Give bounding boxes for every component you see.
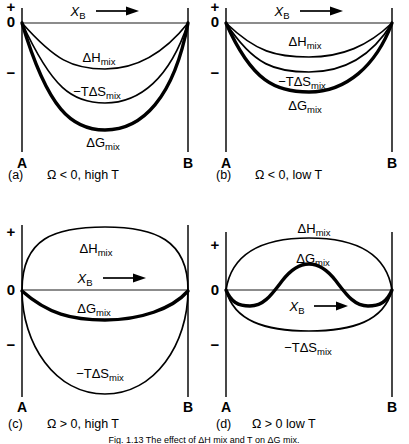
panel-d-right-arrow-head-icon — [336, 302, 348, 311]
panel-c-label-enthalpy: ΔHmix — [80, 241, 113, 258]
panel-c-tag: (c) — [8, 417, 23, 431]
panel-d-end-label-b: B — [387, 399, 397, 415]
panel-c-condition: Ω > 0, high T — [47, 417, 119, 431]
panel-a-label-gibbs: ΔGmix — [86, 135, 120, 152]
panel-a: + 0 − A B XB ΔHmix −TΔSmix ΔGmix (a) Ω <… — [7, 0, 193, 182]
panel-b-composition-label: XB — [273, 4, 343, 21]
thermodynamic-mixing-figure: + 0 − A B XB ΔHmix −TΔSmix ΔGmix (a) Ω <… — [0, 0, 409, 444]
panel-c-label-entropy: −TΔSmix — [76, 366, 124, 383]
panel-b-label-gibbs: ΔGmix — [288, 98, 322, 115]
panel-b-xb-symbol: XB — [273, 4, 289, 21]
panel-c-composition-label: XB — [76, 271, 146, 288]
panel-c-end-label-b: B — [183, 399, 193, 415]
panel-c-xb-symbol: XB — [76, 271, 92, 288]
figure-caption: Fig. 1.13 The effect of ΔH mix and T on … — [109, 435, 300, 444]
panel-d-axis-label-zero: 0 — [211, 281, 219, 298]
panel-a-label-entropy: −TΔSmix — [73, 84, 121, 101]
panel-d-tag: (d) — [216, 417, 231, 431]
panel-d-composition-label: XB — [288, 299, 348, 316]
panel-d-condition: Ω > 0 low T — [252, 417, 316, 431]
panel-b-axis-label-negative: − — [211, 64, 220, 81]
panel-d-label-entropy: −TΔSmix — [284, 340, 332, 357]
panel-a-condition: Ω < 0, high T — [47, 168, 119, 182]
panel-c: + 0 − A B XB ΔHmix ΔGmix −TΔSmix (c) Ω >… — [7, 223, 193, 431]
panel-b-label-enthalpy: ΔHmix — [289, 34, 322, 51]
panel-a-tag: (a) — [8, 168, 23, 182]
panel-b-tag: (b) — [216, 168, 231, 182]
panel-c-right-arrow-head-icon — [133, 274, 146, 283]
panel-c-end-label-a: A — [17, 399, 27, 415]
panel-c-axis-label-negative: − — [7, 336, 16, 353]
panel-b-end-label-b: B — [387, 155, 397, 171]
panel-a-xb-symbol: XB — [69, 4, 85, 21]
panel-d-curve-entropy — [226, 290, 392, 331]
panel-c-curve-enthalpy — [22, 227, 188, 290]
panel-d-axis-label-positive: + — [211, 236, 220, 253]
panel-b-label-entropy: −TΔSmix — [278, 74, 326, 91]
panel-d-label-enthalpy: ΔHmix — [298, 221, 331, 238]
panel-a-axis-label-zero: 0 — [7, 13, 15, 30]
panel-b-right-arrow-head-icon — [330, 7, 343, 16]
panel-a-end-label-b: B — [183, 155, 193, 171]
figure-canvas: + 0 − A B XB ΔHmix −TΔSmix ΔGmix (a) Ω <… — [0, 0, 409, 444]
panel-a-right-arrow-head-icon — [126, 7, 139, 16]
panel-a-axis-label-negative: − — [7, 64, 16, 81]
panel-a-label-enthalpy: ΔHmix — [83, 50, 116, 67]
panel-c-label-gibbs: ΔGmix — [77, 301, 111, 318]
panel-d-curve-gibbs — [226, 264, 392, 306]
panel-d: + 0 − A B XB ΔHmix ΔGmix −TΔSmix (d) Ω >… — [211, 221, 397, 431]
panel-a-composition-label: XB — [69, 4, 139, 21]
panel-d-label-gibbs: ΔGmix — [296, 251, 330, 268]
panel-d-axis-label-negative: − — [211, 336, 220, 353]
panel-d-xb-symbol: XB — [288, 299, 304, 316]
panel-d-end-label-a: A — [221, 399, 231, 415]
panel-b: + 0 − A B XB ΔHmix −TΔSmix ΔGmix (b) Ω <… — [211, 0, 397, 182]
panel-b-condition: Ω < 0, low T — [255, 168, 322, 182]
panel-c-axis-label-positive: + — [7, 223, 16, 240]
panel-b-axis-label-zero: 0 — [211, 13, 219, 30]
panel-c-axis-label-zero: 0 — [7, 281, 15, 298]
panel-a-curve-gibbs — [22, 23, 188, 130]
